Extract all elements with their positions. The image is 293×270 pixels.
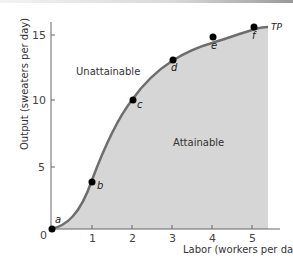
x-tick-label: 2 — [129, 232, 136, 245]
x-tick-label: 3 — [169, 232, 176, 245]
y-tick-label: 10 — [32, 94, 46, 107]
tp-curve-label: TP — [271, 22, 282, 32]
x-axis-title: Labor (workers per day) — [183, 244, 293, 255]
attainable-label: Attainable — [173, 137, 224, 148]
point-label-c: c — [137, 99, 143, 110]
origin-label: 0 — [40, 229, 47, 242]
point-c — [130, 97, 137, 104]
y-tick-label: 5 — [38, 161, 45, 174]
tp-chart: 0 1 2 3 4 5 5 10 15 Labor (workers per d… — [0, 0, 293, 270]
point-label-d: d — [171, 62, 178, 73]
point-a — [49, 226, 56, 233]
point-label-a: a — [55, 214, 61, 225]
y-tick-label: 15 — [32, 29, 46, 42]
unattainable-label: Unattainable — [76, 66, 140, 77]
x-tick-label: 1 — [89, 232, 96, 245]
point-label-b: b — [97, 180, 103, 191]
point-label-e: e — [211, 40, 217, 51]
y-axis-title: Output (sweaters per day) — [19, 18, 30, 150]
y-ticks — [51, 35, 55, 167]
point-b — [89, 179, 96, 186]
